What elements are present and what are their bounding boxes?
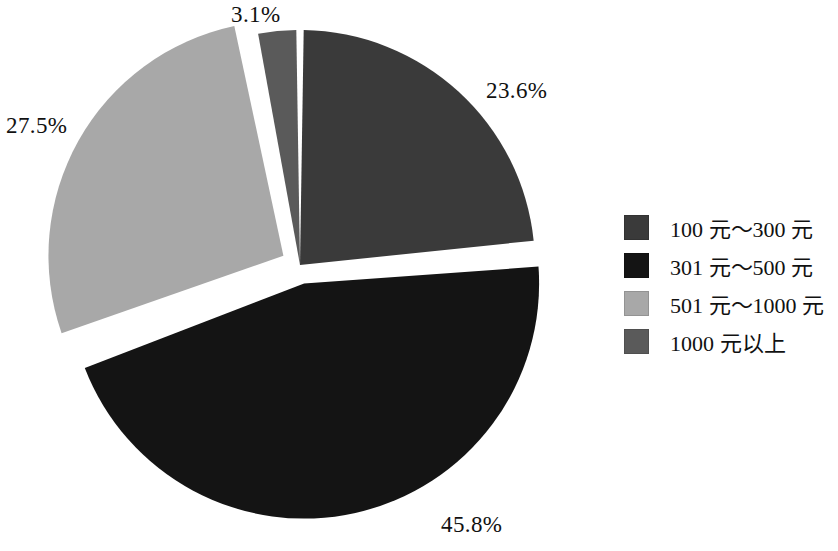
slice-label-1000-above: 3.1%: [231, 2, 281, 28]
slice-label-301-500: 45.8%: [441, 512, 502, 538]
pie-slice-301-500[interactable]: [85, 267, 539, 519]
chart-legend: 100 元～300 元 301 元～500 元 501 元～1000 元 100…: [624, 208, 838, 360]
slice-label-501-1000: 27.5%: [6, 113, 67, 139]
legend-swatch-icon-301-500: [624, 253, 649, 278]
pie-slice-100-300[interactable]: [300, 30, 534, 265]
legend-item-501-1000[interactable]: 501 元～1000 元: [624, 284, 838, 322]
legend-swatch-icon-100-300: [624, 215, 649, 240]
pie-slice-501-1000[interactable]: [48, 26, 283, 333]
legend-item-100-300[interactable]: 100 元～300 元: [624, 208, 838, 246]
pie-plot-area: 3.1% 23.6% 27.5% 45.8%: [0, 0, 600, 551]
legend-swatch-icon-1000-above: [624, 329, 649, 354]
legend-label-301-500: 301 元～500 元: [670, 249, 813, 281]
legend-item-301-500[interactable]: 301 元～500 元: [624, 246, 838, 284]
slice-label-100-300: 23.6%: [486, 78, 547, 104]
legend-label-1000-above: 1000 元以上: [670, 325, 786, 357]
legend-swatch-icon-501-1000: [624, 291, 649, 316]
pie-chart-figure: 3.1% 23.6% 27.5% 45.8% 100 元～300 元 301 元…: [0, 0, 838, 551]
legend-item-1000-above[interactable]: 1000 元以上: [624, 322, 838, 360]
legend-label-100-300: 100 元～300 元: [670, 211, 813, 243]
legend-label-501-1000: 501 元～1000 元: [670, 287, 824, 319]
